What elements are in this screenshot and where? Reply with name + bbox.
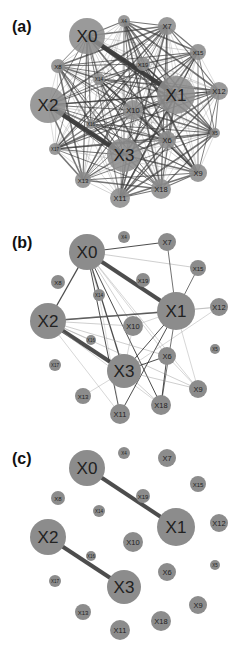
node-x0: X0 <box>69 450 105 486</box>
edge-X2-X18 <box>48 321 161 405</box>
node-label: X9 <box>193 385 202 394</box>
node-label: X11 <box>114 194 127 203</box>
node-label: X14 <box>95 77 104 82</box>
node-label: X18 <box>154 401 167 410</box>
node-x15: X15 <box>190 260 206 276</box>
node-label: X3 <box>114 578 135 597</box>
node-x9: X9 <box>189 380 207 398</box>
node-label: X19 <box>138 62 149 68</box>
network-graph-c: X0X4X7X15X8X19X14X1X12X2X10X16X5X6X17X3X… <box>0 432 241 650</box>
node-label: X17 <box>51 363 60 368</box>
node-label: X12 <box>212 87 225 96</box>
node-label: X3 <box>114 362 135 381</box>
node-x13: X13 <box>75 388 91 404</box>
node-label: X16 <box>87 338 96 343</box>
node-label: X15 <box>193 50 204 56</box>
node-x2: X2 <box>30 303 66 339</box>
node-x3: X3 <box>107 354 141 388</box>
nodes: X0X4X7X15X8X19X14X1X12X2X10X16X5X6X17X3X… <box>30 447 228 640</box>
node-label: X12 <box>212 303 225 312</box>
panel-label: (a) <box>12 18 32 36</box>
node-x18: X18 <box>151 395 171 415</box>
network-graph-b: X0X4X7X15X8X19X14X1X12X2X10X16X5X6X17X3X… <box>0 216 241 434</box>
node-label: X15 <box>193 482 204 488</box>
node-x13: X13 <box>75 604 91 620</box>
node-label: X6 <box>162 568 171 577</box>
node-label: X12 <box>212 519 225 528</box>
node-label: X10 <box>126 538 139 547</box>
node-x10: X10 <box>123 316 143 336</box>
node-x9: X9 <box>189 164 207 182</box>
node-x6: X6 <box>158 563 176 581</box>
node-x3: X3 <box>107 570 141 604</box>
network-figure: X0X4X7X15X8X19X14X1X12X2X10X16X5X6X17X3X… <box>0 0 241 656</box>
node-label: X7 <box>162 454 171 463</box>
node-label: X1 <box>166 86 187 105</box>
node-x10: X10 <box>123 100 143 120</box>
node-label: X8 <box>54 496 62 502</box>
node-label: X8 <box>54 64 62 70</box>
node-label: X2 <box>38 96 59 115</box>
node-label: X9 <box>193 169 202 178</box>
node-label: X8 <box>54 280 62 286</box>
node-x7: X7 <box>158 233 176 251</box>
node-label: X11 <box>114 626 127 635</box>
node-x19: X19 <box>136 57 150 71</box>
network-graph-a: X0X4X7X15X8X19X14X1X12X2X10X16X5X6X17X3X… <box>0 0 241 218</box>
node-label: X13 <box>78 610 89 616</box>
node-x6: X6 <box>158 347 176 365</box>
node-x7: X7 <box>158 17 176 35</box>
node-label: X4 <box>121 19 127 24</box>
node-x16: X16 <box>86 335 96 345</box>
edge-X0-X6 <box>87 252 167 356</box>
node-label: X18 <box>154 185 167 194</box>
node-label: X15 <box>193 266 204 272</box>
node-x5: X5 <box>210 344 220 354</box>
node-label: X17 <box>51 579 60 584</box>
node-x15: X15 <box>190 476 206 492</box>
node-x4: X4 <box>118 447 130 459</box>
node-x13: X13 <box>75 172 91 188</box>
node-label: X0 <box>77 27 98 46</box>
node-label: X2 <box>38 528 59 547</box>
node-x1: X1 <box>157 76 195 114</box>
node-x8: X8 <box>51 275 65 289</box>
nodes: X0X4X7X15X8X19X14X1X12X2X10X16X5X6X17X3X… <box>30 231 228 424</box>
node-label: X6 <box>162 136 171 145</box>
node-x18: X18 <box>151 611 171 631</box>
node-x4: X4 <box>118 15 130 27</box>
node-x1: X1 <box>157 292 195 330</box>
node-x5: X5 <box>210 560 220 570</box>
node-label: X10 <box>126 106 139 115</box>
node-x11: X11 <box>110 188 130 208</box>
node-label: X17 <box>51 147 60 152</box>
panel-label: (b) <box>12 234 32 252</box>
node-label: X1 <box>166 302 187 321</box>
node-x5: X5 <box>210 128 220 138</box>
node-label: X10 <box>126 322 139 331</box>
node-x12: X12 <box>210 514 228 532</box>
node-label: X7 <box>162 22 171 31</box>
node-x6: X6 <box>158 131 176 149</box>
node-x15: X15 <box>190 44 206 60</box>
node-x16: X16 <box>86 119 96 129</box>
node-x8: X8 <box>51 491 65 505</box>
node-x14: X14 <box>93 505 105 517</box>
node-x0: X0 <box>69 234 105 270</box>
node-x17: X17 <box>49 143 61 155</box>
node-label: X5 <box>212 347 218 352</box>
node-x8: X8 <box>51 59 65 73</box>
node-label: X4 <box>121 451 127 456</box>
node-x17: X17 <box>49 359 61 371</box>
node-label: X16 <box>87 122 96 127</box>
node-x14: X14 <box>93 289 105 301</box>
node-label: X13 <box>78 178 89 184</box>
node-x19: X19 <box>136 273 150 287</box>
panel-c: X0X4X7X15X8X19X14X1X12X2X10X16X5X6X17X3X… <box>0 432 241 650</box>
edges <box>48 468 176 587</box>
node-x11: X11 <box>110 620 130 640</box>
node-label: X1 <box>166 518 187 537</box>
node-label: X6 <box>162 352 171 361</box>
node-label: X0 <box>77 243 98 262</box>
node-x12: X12 <box>210 82 228 100</box>
